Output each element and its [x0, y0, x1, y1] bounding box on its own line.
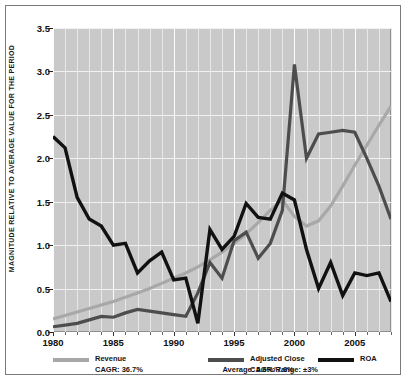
- x-axis-tick-mark: [234, 332, 235, 336]
- x-axis-tick-mark: [138, 332, 139, 335]
- y-axis-tick-mark: [48, 158, 53, 159]
- series-layer: [53, 28, 391, 332]
- legend-annotation: CAGR: 36.7%: [95, 365, 143, 374]
- x-axis-tick-mark: [186, 332, 187, 335]
- legend-annotation: Average: 5.6%/Range: ±3%: [222, 365, 318, 374]
- chart-figure: MAGNITUDE RELATIVE TO AVERAGE VALUE FOR …: [0, 0, 406, 388]
- legend-label: Adjusted Close: [250, 354, 305, 363]
- x-axis-tick-mark: [53, 332, 54, 336]
- x-axis-tick-mark: [222, 332, 223, 335]
- x-axis-tick-mark: [113, 332, 114, 336]
- x-axis-tick-mark: [174, 332, 175, 336]
- x-axis-tick-mark: [307, 332, 308, 335]
- legend-swatch: [208, 358, 244, 362]
- y-axis-title-text: MAGNITUDE RELATIVE TO AVERAGE VALUE FOR …: [9, 44, 16, 271]
- x-axis-tick-mark: [125, 332, 126, 335]
- x-axis-tick-mark: [210, 332, 211, 335]
- y-axis-title: MAGNITUDE RELATIVE TO AVERAGE VALUE FOR …: [4, 6, 20, 310]
- y-axis-tick-mark: [48, 115, 53, 116]
- series-line-roa: [53, 137, 391, 324]
- x-axis-tick-mark: [331, 332, 332, 335]
- gridline-vertical: [391, 28, 392, 332]
- x-axis-tick-mark: [162, 332, 163, 335]
- x-axis-tick-label: 1990: [163, 337, 184, 348]
- x-axis-tick-mark: [89, 332, 90, 335]
- x-axis-tick-mark: [391, 332, 392, 335]
- x-axis-tick-label: 1995: [223, 337, 244, 348]
- y-axis-tick-mark: [48, 289, 53, 290]
- figure-border: MAGNITUDE RELATIVE TO AVERAGE VALUE FOR …: [5, 5, 401, 375]
- x-axis-tick-mark: [77, 332, 78, 335]
- x-axis-tick-mark: [101, 332, 102, 335]
- x-axis-tick-mark: [150, 332, 151, 335]
- x-axis-tick-label: 1985: [103, 337, 124, 348]
- x-axis-tick-mark: [258, 332, 259, 335]
- plot-area: 0.00.51.01.52.02.53.03.51980198519901995…: [53, 28, 391, 332]
- x-axis-tick-mark: [367, 332, 368, 335]
- x-axis-tick-mark: [198, 332, 199, 335]
- x-axis-tick-label: 2005: [344, 337, 365, 348]
- x-axis-tick-mark: [246, 332, 247, 335]
- legend-swatch: [53, 358, 89, 362]
- y-axis-tick-mark: [48, 71, 53, 72]
- x-axis-tick-label: 2000: [284, 337, 305, 348]
- x-axis-tick-mark: [319, 332, 320, 335]
- x-axis-tick-mark: [379, 332, 380, 335]
- x-axis-tick-mark: [282, 332, 283, 335]
- legend-label: Revenue: [95, 354, 126, 363]
- chart-legend: RevenueCAGR: 36.7%Adjusted CloseCAGR: 7.…: [53, 354, 393, 380]
- y-axis-tick-mark: [48, 28, 53, 29]
- y-axis-tick-mark: [48, 245, 53, 246]
- x-axis-tick-mark: [355, 332, 356, 336]
- legend-swatch: [318, 358, 354, 362]
- legend-label: ROA: [360, 354, 377, 363]
- x-axis-tick-mark: [270, 332, 271, 335]
- x-axis-tick-label: 1980: [42, 337, 63, 348]
- x-axis-tick-mark: [294, 332, 295, 336]
- x-axis-tick-mark: [343, 332, 344, 335]
- y-axis-tick-mark: [48, 202, 53, 203]
- x-axis-tick-mark: [65, 332, 66, 335]
